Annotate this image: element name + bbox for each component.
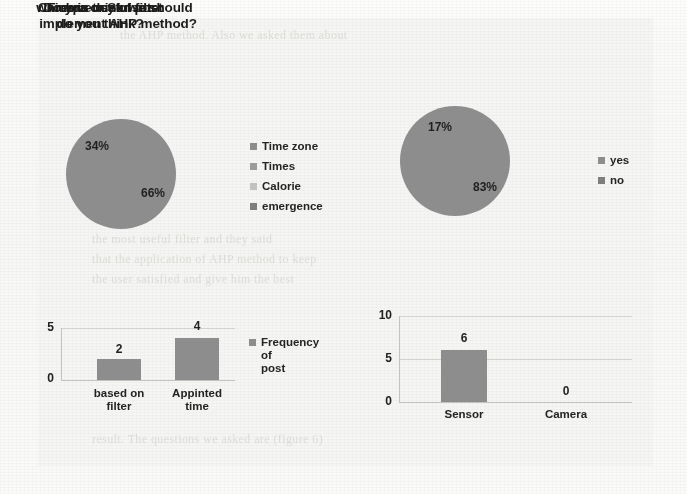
- bar-appinted-time[interactable]: [175, 338, 219, 380]
- pie-slice-label-34: 34%: [85, 139, 109, 153]
- gridline-5: [399, 359, 632, 360]
- legend-useful-filter: Time zone Times Calorie emergence: [250, 140, 323, 220]
- legend-implement-ahp: yes no: [598, 154, 629, 194]
- legend-swatch-icon: [598, 177, 605, 184]
- legend-swatch-icon: [249, 339, 256, 346]
- x-label-line-1: Appinted: [157, 387, 237, 400]
- legend-item[interactable]: Calorie: [250, 180, 323, 193]
- x-label-line-1: based on: [79, 387, 159, 400]
- y-tick-5: 5: [22, 320, 54, 334]
- x-label-line-2: filter: [79, 400, 159, 413]
- bar-sensor[interactable]: [441, 350, 487, 402]
- axis-x-baseline: [399, 402, 632, 403]
- axis-x-baseline: [61, 380, 235, 381]
- gridline-10: [399, 316, 632, 317]
- legend-item[interactable]: emergence: [250, 200, 323, 213]
- legend-item[interactable]: yes: [598, 154, 629, 167]
- legend-label: Calorie: [262, 180, 301, 193]
- pie-implement-ahp: [400, 106, 510, 216]
- x-axis-label-appinted-time: Appinted time: [157, 387, 237, 413]
- legend-swatch-icon: [250, 183, 257, 190]
- x-label-line-2: time: [157, 400, 237, 413]
- axis-y-line: [61, 328, 62, 381]
- legend-swatch-icon: [250, 143, 257, 150]
- legend-label: no: [610, 174, 624, 187]
- legend-label-line-1: Frequency of: [261, 336, 319, 361]
- legend-swatch-icon: [250, 203, 257, 210]
- legend-item[interactable]: Time zone: [250, 140, 323, 153]
- y-tick-10: 10: [360, 308, 392, 322]
- legend-label: Time zone: [262, 140, 318, 153]
- bar-value-label: 6: [441, 331, 487, 345]
- legend-label: Times: [262, 160, 295, 173]
- chart-title-line-2: implement AHP method?: [0, 16, 236, 32]
- pie-slice-label-17: 17%: [428, 120, 452, 134]
- figure-four-charts: which is useful filter do you think? 34%…: [0, 0, 687, 494]
- bar-value-label: 2: [97, 342, 141, 356]
- y-tick-5: 5: [360, 351, 392, 365]
- y-tick-0: 0: [22, 371, 54, 385]
- pie-slice-label-66: 66%: [141, 186, 165, 200]
- legend-label: emergence: [262, 200, 323, 213]
- legend-label: yes: [610, 154, 629, 167]
- chart-title-camera-or-sensor: Camera or Sensor: [0, 0, 190, 16]
- legend-swatch-icon: [598, 157, 605, 164]
- x-axis-label-camera: Camera: [526, 408, 606, 421]
- bar-value-label: 4: [175, 319, 219, 333]
- pie-slice-label-83: 83%: [473, 180, 497, 194]
- legend-label: Frequency of post: [261, 336, 333, 375]
- legend-label-line-2: post: [261, 362, 333, 375]
- legend-item[interactable]: Frequency of post: [249, 336, 333, 375]
- pie-useful-filter: [66, 119, 176, 229]
- legend-item[interactable]: Times: [250, 160, 323, 173]
- y-tick-0: 0: [360, 394, 392, 408]
- legend-frequency-of-post: Frequency of post: [249, 336, 333, 382]
- x-axis-label-sensor: Sensor: [424, 408, 504, 421]
- chart-camera-or-sensor: Camera or Sensor 10 5 0 6 0 Sensor Camer…: [0, 0, 190, 16]
- bar-value-label-camera: 0: [543, 384, 589, 398]
- legend-swatch-icon: [250, 163, 257, 170]
- axis-y-line: [399, 316, 400, 403]
- x-axis-label-based-on-filter: based on filter: [79, 387, 159, 413]
- legend-item[interactable]: no: [598, 174, 629, 187]
- bar-based-on-filter[interactable]: [97, 359, 141, 380]
